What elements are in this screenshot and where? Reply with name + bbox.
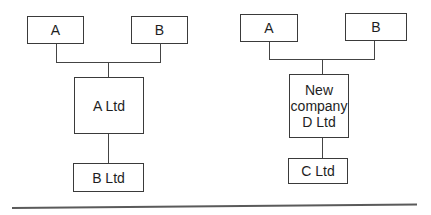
left-shareholder-a-box: A <box>27 16 84 44</box>
right-shareholder-b-label: B <box>371 19 380 35</box>
left-parent-company-label: A Ltd <box>93 98 125 114</box>
left-shareholder-a-label: A <box>51 22 60 38</box>
left-shareholder-b-box: B <box>131 16 188 44</box>
right-new-company-box: New company D Ltd <box>289 74 349 138</box>
bottom-divider-rule <box>12 203 417 209</box>
right-subsidiary-label: C Ltd <box>301 163 334 179</box>
right-subsidiary-box: C Ltd <box>288 158 348 184</box>
left-connector-a-down <box>56 44 57 63</box>
right-connector-b-down <box>374 41 375 59</box>
right-connector-a-down <box>269 42 270 60</box>
right-connector-to-subsidiary <box>322 138 323 158</box>
right-shareholder-a-box: A <box>240 14 298 42</box>
right-new-company-label: New company D Ltd <box>291 82 348 130</box>
left-shareholder-b-label: B <box>155 22 164 38</box>
left-connector-to-subsidiary <box>108 134 109 163</box>
left-connector-to-parent <box>108 62 109 77</box>
right-shareholder-b-box: B <box>345 13 407 41</box>
left-subsidiary-label: B Ltd <box>92 170 125 186</box>
left-subsidiary-box: B Ltd <box>73 163 144 192</box>
right-connector-to-parent <box>322 59 323 74</box>
left-connector-b-down <box>160 43 161 62</box>
left-parent-company-box: A Ltd <box>74 77 144 134</box>
right-shareholder-a-label: A <box>264 20 273 36</box>
